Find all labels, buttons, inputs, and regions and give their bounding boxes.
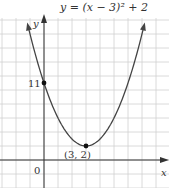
- parabola-chart: y = (x − 3)² + 2 y x 0 11 (3, 2): [0, 0, 169, 188]
- chart-title: y = (x − 3)² + 2: [59, 1, 148, 14]
- origin-label: 0: [34, 165, 40, 176]
- y-axis-label: y: [32, 18, 39, 29]
- curve-arrow-right-icon: [140, 23, 146, 31]
- grid-lines: [0, 18, 169, 188]
- axes: [0, 14, 169, 188]
- point-vertex: [84, 144, 89, 149]
- x-axis-arrow-icon: [160, 157, 169, 163]
- y-axis-arrow-icon: [41, 14, 47, 23]
- vertex-label: (3, 2): [64, 149, 91, 160]
- y-intercept-label: 11: [28, 78, 41, 89]
- x-axis-label: x: [161, 167, 167, 178]
- point-y-intercept: [42, 81, 47, 86]
- curve-arrow-left-icon: [26, 23, 32, 31]
